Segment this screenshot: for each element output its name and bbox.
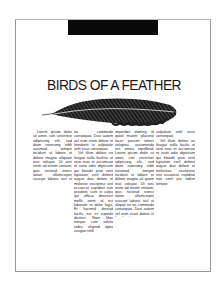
text-column-2: ea commodo consequat. Duis autem vel eum… <box>74 130 113 234</box>
text-columns: Lorem ipsum dolor sit amet, con secteteu… <box>33 130 197 260</box>
feather-icon <box>42 95 180 127</box>
header-bar <box>68 20 158 35</box>
paragraph: Vel illum dolore eu feugiat nulla facili… <box>74 151 113 233</box>
text-column-3: imperdiet doming id quod mazim placerat … <box>115 130 154 217</box>
paragraph: ea commodo consequat. Duis autem vel eum… <box>74 130 113 151</box>
paragraph: Vel illum dolore eu feugiat nulla facili… <box>156 139 195 186</box>
page-title: BIRDS OF A FEATHER <box>24 77 204 92</box>
paragraph: Lorem ipsum dolor sit amet, con secteteu… <box>33 130 72 182</box>
text-column-1: Lorem ipsum dolor sit amet, con secteteu… <box>33 130 72 182</box>
paragraph: vulputate velit esse consequat. <box>156 130 195 139</box>
document-page: BIRDS OF A FEATHER Lorem ipsum dolor sit… <box>15 19 211 272</box>
text-column-4: vulputate velit esse consequat. Vel illu… <box>156 130 195 186</box>
paragraph: imperdiet doming id quod mazim placerat … <box>115 130 154 217</box>
